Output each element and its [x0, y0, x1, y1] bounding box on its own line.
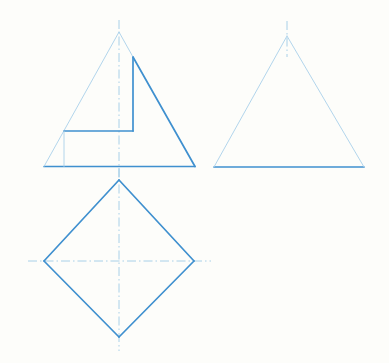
lower-left-edge	[44, 261, 119, 337]
upper-left-edge	[44, 180, 119, 261]
left-slope	[214, 36, 287, 167]
top-view-diamond	[28, 168, 211, 351]
front-view-stepped-triangle	[44, 20, 195, 180]
side-view-triangle	[214, 21, 364, 167]
right-slope-lower	[133, 57, 195, 167]
lower-right-edge	[119, 261, 194, 337]
left-slope	[44, 32, 119, 167]
upper-right-edge	[119, 180, 194, 261]
drawing-svg	[0, 0, 389, 363]
right-slope	[287, 36, 364, 167]
right-slope-upper	[119, 32, 133, 57]
technical-drawing-canvas	[0, 0, 389, 363]
